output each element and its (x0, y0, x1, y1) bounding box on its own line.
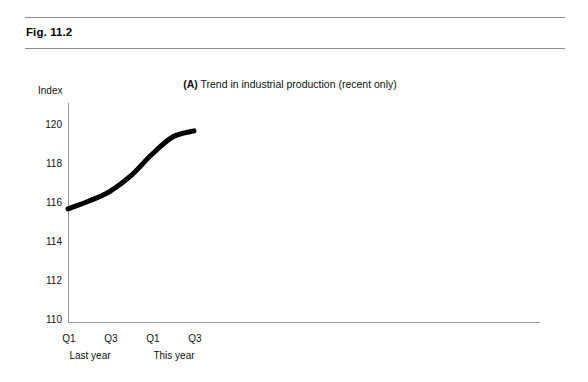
data-series-line (68, 131, 194, 209)
chart-line-industrial-production: (A) Trend in industrial production (rece… (0, 0, 588, 382)
figure-root: Fig. 11.2 (A) Trend in industrial produc… (0, 0, 588, 382)
plot-area (0, 0, 588, 382)
